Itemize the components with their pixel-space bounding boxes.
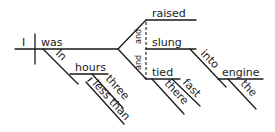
word-prep1-object: hours (75, 61, 106, 74)
word-prep2-object: engine (222, 66, 260, 79)
less-than-connector (88, 78, 92, 81)
word-slung: slung (152, 36, 182, 49)
word-conj2: and (134, 55, 143, 70)
word-tied: tied (152, 66, 173, 79)
word-the: the (238, 77, 260, 99)
word-verb: was (41, 36, 63, 49)
word-prep2: into (198, 47, 222, 71)
word-conj1: and (134, 29, 143, 44)
sentence-diagram: I was In hours three less than and and r… (0, 0, 275, 132)
word-subject: I (22, 36, 25, 49)
word-raised: raised (152, 7, 186, 20)
